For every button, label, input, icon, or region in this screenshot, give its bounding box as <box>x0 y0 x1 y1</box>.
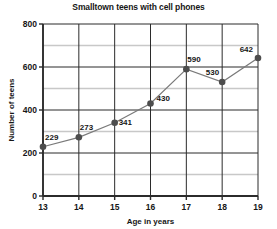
data-point-marker[interactable] <box>111 119 118 126</box>
data-point-label: 430 <box>157 94 171 103</box>
x-tick-label: 13 <box>38 202 48 212</box>
data-point-label: 273 <box>80 123 94 132</box>
x-tick-label: 18 <box>217 202 227 212</box>
y-tick-label: 400 <box>23 105 37 115</box>
data-point-label: 229 <box>45 133 59 142</box>
y-tick-label: 800 <box>23 19 37 29</box>
data-point-label: 341 <box>119 118 133 127</box>
x-tick-label: 16 <box>146 202 156 212</box>
y-tick-label: 0 <box>32 191 37 201</box>
data-point-marker[interactable] <box>183 66 190 73</box>
y-axis-title: Number of teens <box>7 78 16 142</box>
y-tick-label: 600 <box>23 62 37 72</box>
x-tick-label: 19 <box>253 202 263 212</box>
x-tick-label: 15 <box>110 202 120 212</box>
data-point-label: 530 <box>206 68 220 77</box>
data-point-label: 642 <box>240 45 254 54</box>
data-point-label: 590 <box>187 55 201 64</box>
data-point-marker[interactable] <box>147 100 154 107</box>
data-point-marker[interactable] <box>255 55 262 62</box>
x-axis-title: Age in years <box>127 217 175 226</box>
data-point-marker[interactable] <box>40 143 47 150</box>
data-point-marker[interactable] <box>219 79 226 86</box>
x-tick-label: 17 <box>182 202 192 212</box>
line-chart-plot: 0200400600800131415161718192292733414305… <box>0 0 277 229</box>
x-tick-label: 14 <box>74 202 84 212</box>
data-point-marker[interactable] <box>76 134 83 141</box>
y-tick-label: 200 <box>23 148 37 158</box>
chart-container: Smalltown teens with cell phones 0200400… <box>0 0 277 229</box>
